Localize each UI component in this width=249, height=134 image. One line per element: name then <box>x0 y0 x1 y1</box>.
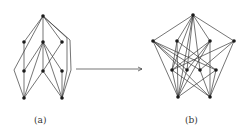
right-graph-edge <box>153 15 193 41</box>
right-graph-edge <box>193 15 200 70</box>
left-graph-edge <box>43 42 62 98</box>
left-graph-node <box>41 40 45 44</box>
right-graph-edge <box>200 70 210 97</box>
left-graph-edge <box>43 16 62 42</box>
right-graph-edge <box>193 15 234 41</box>
left-graph-node <box>22 40 26 44</box>
right-graph-node <box>151 39 155 43</box>
left-graph-edge <box>43 71 62 98</box>
right-graph-node <box>175 39 179 43</box>
right-graph-node <box>214 68 218 72</box>
right-graph-node <box>208 39 212 43</box>
left-graph <box>14 14 71 100</box>
diagram-canvas <box>0 0 249 134</box>
left-graph-node <box>41 69 45 73</box>
right-graph-node <box>198 68 202 72</box>
left-graph-node <box>60 69 64 73</box>
label-b: (b) <box>185 115 198 125</box>
right-graph-edge <box>200 41 234 70</box>
left-graph-edge <box>43 16 67 98</box>
left-graph-edge <box>24 16 43 42</box>
right-graph-node <box>185 68 189 72</box>
label-a: (a) <box>34 115 46 125</box>
left-graph-edge <box>24 42 43 98</box>
arrow-icon <box>76 67 142 71</box>
left-graph-edge <box>24 71 43 98</box>
left-graph-node <box>22 69 26 73</box>
right-graph-node <box>191 13 195 17</box>
left-graph-node <box>60 40 64 44</box>
right-graph-node <box>208 95 212 99</box>
left-graph-node <box>41 14 45 18</box>
right-graph-node <box>232 39 236 43</box>
left-graph-node <box>22 96 26 100</box>
right-graph-edge <box>177 41 178 97</box>
right-graph-node <box>170 68 174 72</box>
right-graph <box>151 13 236 99</box>
right-graph-node <box>176 95 180 99</box>
left-graph-node <box>60 96 64 100</box>
